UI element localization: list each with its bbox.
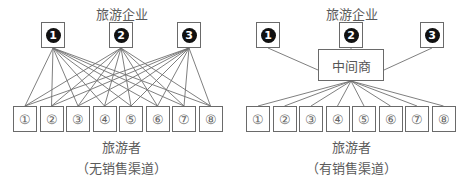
intermediary-box: 中间商 bbox=[318, 49, 384, 81]
right-tourist-8: ⑧ bbox=[432, 106, 456, 132]
connection-lines bbox=[0, 0, 465, 181]
right-tourist-2: ② bbox=[273, 106, 297, 132]
right-tourist-5: ⑤ bbox=[352, 106, 376, 132]
right-caption: （有销售渠道） bbox=[301, 158, 401, 177]
left-tourist-5: ⑤ bbox=[119, 106, 143, 132]
right-tourist-6: ⑥ bbox=[379, 106, 403, 132]
left-tourist-3: ③ bbox=[66, 106, 90, 132]
left-enterprise-3: 3 bbox=[177, 22, 201, 48]
left-tourist-2: ② bbox=[40, 106, 64, 132]
right-enterprise-label: 旅游企业 bbox=[326, 4, 376, 23]
right-tourist-3: ③ bbox=[299, 106, 323, 132]
right-tourist-label: 旅游者 bbox=[326, 137, 376, 156]
right-tourist-1: ① bbox=[246, 106, 270, 132]
left-tourist-1: ① bbox=[13, 106, 37, 132]
left-tourist-6: ⑥ bbox=[146, 106, 170, 132]
left-caption: （无销售渠道） bbox=[71, 158, 171, 177]
left-tourist-label: 旅游者 bbox=[96, 137, 146, 156]
right-tourist-4: ④ bbox=[326, 106, 350, 132]
right-enterprise-1: 1 bbox=[256, 22, 280, 48]
left-tourist-7: ⑦ bbox=[172, 106, 196, 132]
right-enterprise-3: 3 bbox=[420, 22, 444, 48]
right-enterprise-2: 2 bbox=[339, 22, 363, 48]
left-enterprise-2: 2 bbox=[109, 22, 133, 48]
left-enterprise-label: 旅游企业 bbox=[96, 4, 146, 23]
right-tourist-7: ⑦ bbox=[405, 106, 429, 132]
left-enterprise-1: 1 bbox=[41, 22, 65, 48]
left-tourist-4: ④ bbox=[93, 106, 117, 132]
left-tourist-8: ⑧ bbox=[199, 106, 223, 132]
